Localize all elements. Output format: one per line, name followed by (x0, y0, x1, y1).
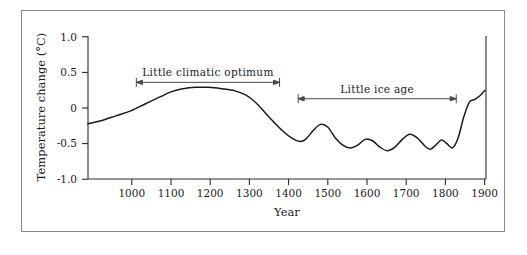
y-axis-title: Temperature change (°C) (34, 33, 48, 181)
x-tick-label-1300: 1300 (236, 187, 263, 199)
temperature-change-chart: 1.0 0.5 0 -0.5 -1.0 Temperature change (… (0, 0, 527, 255)
y-tick-label--1.0: -1.0 (57, 173, 77, 185)
x-tick-label-1100: 1100 (158, 187, 185, 199)
y-tick-label-0.5: 0.5 (60, 66, 77, 78)
x-tick-label-1600: 1600 (354, 187, 381, 199)
annotation-1-arrowhead-right (274, 80, 280, 84)
temperature-curve (88, 87, 485, 151)
annotation-2-label: Little ice age (340, 83, 414, 95)
x-tick-label-1900: 1900 (471, 187, 498, 199)
x-axis-title: Year (273, 205, 300, 219)
annotation-1-arrowhead-left (136, 80, 142, 84)
y-tick-label-0: 0 (70, 102, 77, 114)
x-tick-label-1000: 1000 (118, 187, 145, 199)
y-axis-ticks (82, 37, 88, 180)
annotation-2-arrowhead-left (298, 97, 304, 101)
x-tick-label-1400: 1400 (275, 187, 302, 199)
x-tick-label-1500: 1500 (314, 187, 341, 199)
x-tick-label-1200: 1200 (197, 187, 224, 199)
annotation-little-climatic-optimum: Little climatic optimum (136, 66, 279, 87)
annotation-1-label: Little climatic optimum (142, 66, 274, 78)
y-tick-label--0.5: -0.5 (57, 137, 77, 149)
x-tick-label-1700: 1700 (393, 187, 420, 199)
x-tick-label-1800: 1800 (432, 187, 459, 199)
annotation-2-arrowhead-right (450, 97, 456, 101)
annotation-little-ice-age: Little ice age (298, 83, 456, 104)
x-axis-ticks (132, 179, 485, 185)
y-tick-label-1.0: 1.0 (60, 31, 77, 43)
